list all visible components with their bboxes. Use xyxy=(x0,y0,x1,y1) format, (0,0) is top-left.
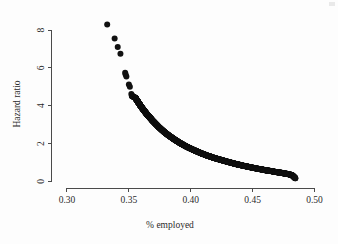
data-point xyxy=(117,51,123,57)
data-point xyxy=(127,84,133,90)
x-axis-title: % employed xyxy=(146,220,194,230)
x-axis-tick-label: 0.35 xyxy=(121,195,138,205)
x-axis-tick-label: 0.30 xyxy=(59,195,76,205)
data-point xyxy=(115,44,121,50)
data-point xyxy=(292,175,298,181)
y-axis-tick-label: 6 xyxy=(37,65,47,70)
plot-axes: 0.300.350.400.450.5002468 xyxy=(37,27,324,205)
axis-label-layer: % employed Hazard ratio xyxy=(12,80,194,230)
y-axis-tick-label: 4 xyxy=(37,103,47,108)
y-axis-tick-label: 0 xyxy=(37,179,47,184)
figure-container: 0.300.350.400.450.5002468 % employed Haz… xyxy=(0,0,338,244)
x-axis-tick-label: 0.45 xyxy=(244,195,261,205)
corner-speck-decoration xyxy=(329,2,335,6)
data-point xyxy=(112,36,118,42)
x-axis-tick-label: 0.50 xyxy=(306,195,323,205)
y-axis-title: Hazard ratio xyxy=(12,80,22,127)
data-point-layer xyxy=(104,21,298,181)
data-point xyxy=(123,73,129,79)
data-point xyxy=(104,21,110,27)
y-axis-tick-label: 8 xyxy=(37,27,47,32)
scatter-plot: 0.300.350.400.450.5002468 % employed Haz… xyxy=(0,0,338,244)
y-axis-tick-label: 2 xyxy=(37,141,47,146)
x-axis-tick-label: 0.40 xyxy=(182,195,199,205)
